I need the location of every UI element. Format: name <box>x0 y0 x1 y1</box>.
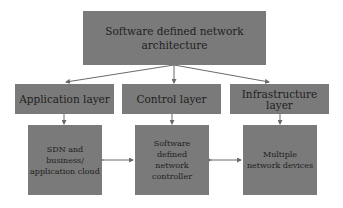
root-node-sdn-architecture: Software defined network architecture <box>83 11 266 65</box>
node-label: Application layer <box>19 94 110 105</box>
node-application-layer: Application layer <box>15 84 114 114</box>
arrow-root-to-infrastructure <box>174 65 269 82</box>
node-label: Multiple network devices <box>245 149 315 171</box>
arrow-root-to-application <box>66 65 174 82</box>
node-application-cloud: SDN and business/ application cloud <box>28 125 102 195</box>
node-control-layer: Control layer <box>122 84 221 114</box>
node-label: Infrastructure layer <box>230 89 329 111</box>
node-label: Control layer <box>136 94 206 105</box>
node-infrastructure-layer: Infrastructure layer <box>230 84 329 114</box>
node-label: SDN and business/ application cloud <box>30 144 100 177</box>
node-sdn-controller: Software defined network controller <box>135 125 209 195</box>
node-label: Software defined network controller <box>145 138 199 182</box>
root-node-label: Software defined network architecture <box>91 24 258 52</box>
node-network-devices: Multiple network devices <box>243 125 317 195</box>
